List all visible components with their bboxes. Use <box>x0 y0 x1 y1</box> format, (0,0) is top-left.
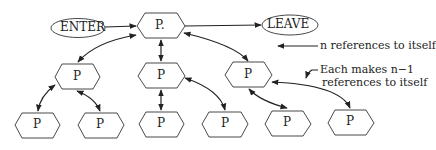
note-each-makes-line1: Each makes n−1 <box>320 63 414 76</box>
top-node-label: P. <box>155 18 164 32</box>
enter-node-label: ENTER <box>60 20 105 34</box>
arrow-top-mid-left <box>78 35 136 62</box>
arrow-mid-right-bottom-5 <box>249 89 287 108</box>
bottom-1-node-label: P <box>33 117 41 131</box>
mid-right-node-label: P <box>244 67 252 81</box>
mid-center-node-label: P <box>157 68 165 82</box>
bottom-4-node-label: P <box>221 116 229 130</box>
mid-left-node-label: P <box>73 69 81 83</box>
note-n-references: n references to itself <box>320 39 436 52</box>
bottom-5-node-label: P <box>283 115 291 129</box>
arrow-top-mid-right <box>184 33 248 61</box>
arrow-note-each-makes <box>306 70 318 78</box>
bottom-3-node-label: P <box>157 116 165 130</box>
arrow-top-bottom-4 <box>185 78 225 110</box>
bottom-2-node-label: P <box>96 117 104 131</box>
arrow-top-to-leave <box>185 25 261 26</box>
arrow-mid-left-bottom-2 <box>77 91 100 111</box>
arrow-enter-to-top <box>105 26 136 27</box>
bottom-6-node-label: P <box>346 114 354 128</box>
leave-node-label: LEAVE <box>267 17 309 31</box>
arrow-mid-left-bottom-1 <box>38 85 55 111</box>
note-each-makes-line2: references to itself <box>322 76 427 89</box>
